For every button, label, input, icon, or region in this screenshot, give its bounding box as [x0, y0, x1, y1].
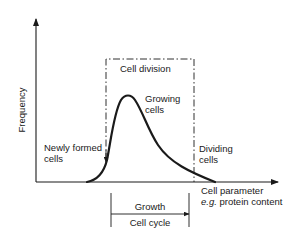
x-axis-label: Cell parameter e.g. protein content: [201, 185, 283, 207]
growing-cells-label: Growing cells: [145, 93, 183, 115]
cell-division-box: [106, 59, 194, 182]
newly-formed-cells-label: Newly formed cells: [44, 142, 105, 164]
cell-cycle-diagram: Frequency Cell division Growing cells Ne…: [0, 0, 303, 240]
cell-cycle-label: Cell cycle: [130, 217, 171, 228]
growth-label: Growth: [135, 201, 166, 212]
cell-division-label: Cell division: [120, 63, 171, 74]
y-axis-label: Frequency: [16, 87, 27, 132]
dividing-cells-label: Dividing cells: [199, 143, 235, 165]
